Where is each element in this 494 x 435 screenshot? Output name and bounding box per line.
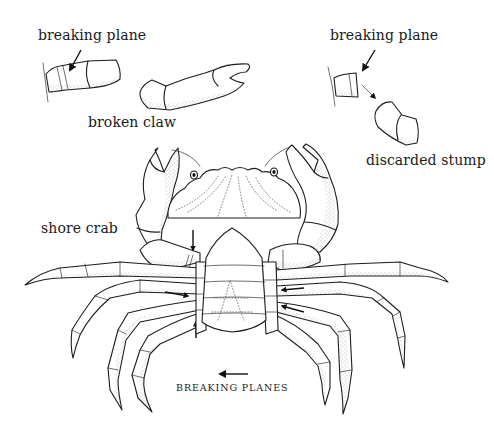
label-discarded-stump: discarded stump — [366, 153, 486, 167]
figure-canvas: breaking plane broken claw breaking plan… — [0, 0, 494, 435]
crab-illustration — [0, 0, 494, 435]
label-shore-crab: shore crab — [41, 221, 118, 235]
label-breaking-plane-right: breaking plane — [330, 28, 438, 42]
right-walking-legs — [272, 262, 448, 414]
carapace — [168, 168, 301, 219]
leg-base-detail — [43, 50, 120, 102]
label-broken-claw: broken claw — [88, 115, 176, 129]
abdomen — [202, 228, 266, 332]
stump-detail — [328, 50, 418, 145]
broken-claw — [140, 64, 250, 110]
label-breaking-plane-left: breaking plane — [38, 28, 146, 42]
caption-breaking-planes: BREAKING PLANES — [176, 383, 289, 393]
